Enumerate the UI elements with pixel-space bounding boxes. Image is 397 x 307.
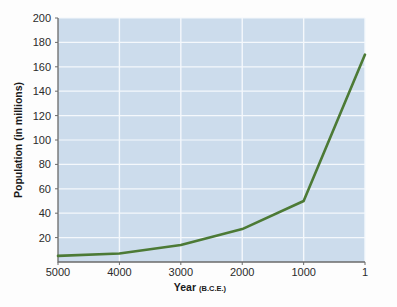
x-tick-label: 3000	[169, 266, 193, 278]
y-tick-label: 20	[39, 232, 51, 244]
y-tick-label: 200	[33, 12, 51, 24]
y-tick-label: 100	[33, 134, 51, 146]
x-tick-label: 1000	[291, 266, 315, 278]
y-tick-label: 180	[33, 36, 51, 48]
x-tick-label: 4000	[107, 266, 131, 278]
x-axis-title-suffix: (B.C.E.)	[199, 284, 227, 293]
x-axis-title: Year	[174, 281, 196, 293]
y-axis-title: Population (in millions)	[12, 82, 24, 198]
y-tick-label: 60	[39, 183, 51, 195]
y-tick-label: 160	[33, 61, 51, 73]
x-tick-label: 5000	[46, 266, 70, 278]
y-tick-label: 120	[33, 110, 51, 122]
y-tick-label: 40	[39, 207, 51, 219]
x-axis-tick-labels: 500040003000200010001	[46, 262, 368, 278]
x-tick-label: 1	[362, 266, 368, 278]
y-axis-tick-labels: 20406080100120140160180200	[33, 12, 58, 244]
x-tick-label: 2000	[230, 266, 254, 278]
population-line-chart: 20406080100120140160180200 5000400030002…	[0, 0, 397, 307]
chart-canvas: 20406080100120140160180200 5000400030002…	[0, 0, 397, 307]
y-tick-label: 140	[33, 85, 51, 97]
y-tick-label: 80	[39, 158, 51, 170]
